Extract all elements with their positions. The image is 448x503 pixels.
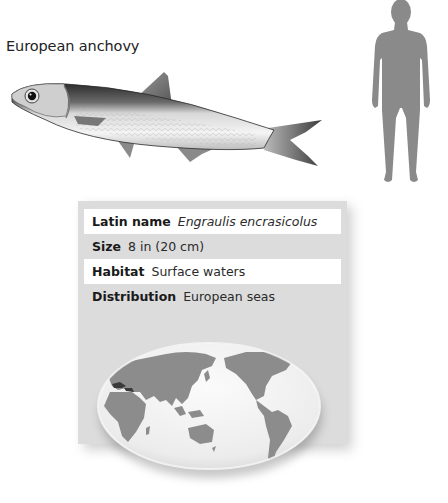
distribution-map xyxy=(96,340,322,474)
fact-row-distribution: Distribution European seas xyxy=(84,284,341,309)
fact-value: Engraulis encrasicolus xyxy=(178,214,318,229)
species-title: European anchovy xyxy=(6,38,139,54)
fact-row-size: Size 8 in (20 cm) xyxy=(84,234,341,259)
fact-label: Distribution xyxy=(92,289,176,304)
fact-row-latin-name: Latin name Engraulis encrasicolus xyxy=(84,209,341,234)
human-silhouette-icon xyxy=(368,0,434,186)
fact-label: Latin name xyxy=(92,214,171,229)
fact-label: Size xyxy=(92,239,121,254)
fact-label: Habitat xyxy=(92,264,145,279)
fact-value: European seas xyxy=(183,289,275,304)
fact-value: 8 in (20 cm) xyxy=(128,239,204,254)
anchovy-illustration xyxy=(6,66,330,170)
fact-row-habitat: Habitat Surface waters xyxy=(84,259,341,284)
fact-value: Surface waters xyxy=(152,264,246,279)
